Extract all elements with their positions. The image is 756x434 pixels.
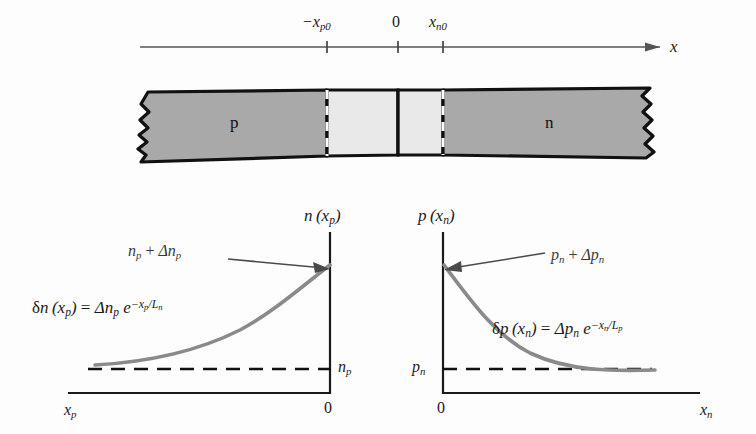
tick-label-zero: 0 xyxy=(392,14,400,30)
tick-label-minus-xp0: −xp0 xyxy=(302,14,331,32)
left-plot-x-axis-label: xp xyxy=(64,402,77,420)
left-plot-equation: δn (xp) = Δnp e−xp/Ln xyxy=(32,299,163,319)
position-axis-group xyxy=(140,41,660,53)
position-axis-arrowhead xyxy=(645,42,660,51)
right-plot-hole-curve xyxy=(444,265,655,370)
right-plot-origin-label: 0 xyxy=(437,400,445,416)
depletion-right-half xyxy=(398,90,443,155)
tick-label-xn0: xn0 xyxy=(429,14,447,32)
left-plot-peak-annotation: np + Δnp xyxy=(128,243,181,261)
position-axis-label: x xyxy=(670,38,678,55)
left-plot-annotation-leader xyxy=(228,259,324,268)
right-plot-annotation-leader xyxy=(452,253,545,268)
right-plot-baseline-label: pn xyxy=(412,359,425,377)
right-plot-y-axis-label: p (xn) xyxy=(418,207,455,227)
right-plot-peak-annotation: pn + Δpn xyxy=(551,247,604,265)
right-plot-x-axis-label: xn xyxy=(700,402,713,420)
semiconductor-pn-junction-figure: −xp0 0 xn0 x p n n (xp) np + Δnp δn (xp)… xyxy=(0,0,756,434)
left-plot-baseline-label: np xyxy=(338,359,351,377)
device-bar-group xyxy=(138,88,654,162)
left-plot-y-axis-label: n (xp) xyxy=(304,207,341,227)
left-plot-origin-label: 0 xyxy=(324,400,332,416)
p-region-label: p xyxy=(230,114,239,131)
depletion-left-half xyxy=(327,90,398,156)
n-region-label: n xyxy=(545,114,554,131)
figure-vector-layer xyxy=(0,0,756,434)
right-plot-equation: δp (xn) = Δpn e−xn/Lp xyxy=(492,320,623,340)
